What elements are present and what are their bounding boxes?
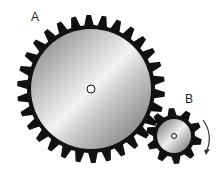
gear-a-label: A — [31, 10, 39, 24]
gear-diagram — [0, 0, 221, 171]
gear-b — [146, 108, 202, 164]
rotation-arrow-icon — [203, 120, 209, 150]
gear-b-label: B — [185, 92, 193, 106]
gear-a — [17, 15, 165, 163]
arrowhead-icon — [204, 149, 210, 155]
